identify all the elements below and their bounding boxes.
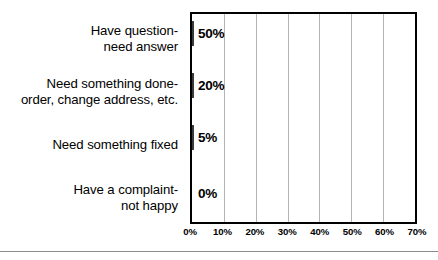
category-label-2: Need something fixed (0, 118, 184, 171)
bar-value-label-1: 20% (198, 78, 224, 93)
x-axis: 0% 10% 20% 30% 40% 50% 60% 70% (190, 226, 417, 242)
bar-track-2: 5% (192, 125, 217, 150)
x-tick-20: 20% (245, 226, 264, 237)
bar-track-0: 50% (192, 21, 224, 46)
bar-value-label-3: 0% (198, 186, 217, 201)
bar-value-label-2: 5% (198, 130, 217, 145)
bar-track-3: 0% (192, 181, 217, 206)
x-tick-40: 40% (310, 226, 329, 237)
x-tick-50: 50% (343, 226, 362, 237)
x-tick-0: 0% (183, 226, 197, 237)
bar-row: 5% (192, 118, 415, 170)
category-axis: Have question- need answer Need somethin… (0, 12, 184, 224)
x-tick-60: 60% (375, 226, 394, 237)
bottom-divider (0, 251, 438, 252)
bar-2[interactable] (192, 125, 194, 150)
horizontal-bar-chart: Have question- need answer Need somethin… (0, 0, 438, 260)
category-label-1: Need something done- order, change addre… (0, 65, 184, 118)
category-label-0: Have question- need answer (0, 12, 184, 65)
bar-row: 0% (192, 170, 415, 222)
x-tick-70: 70% (408, 226, 427, 237)
bar-row: 20% (192, 66, 415, 118)
bar-row: 50% (192, 14, 415, 66)
bar-track-1: 20% (192, 73, 224, 98)
bar-0[interactable] (192, 21, 194, 46)
bars-layer: 50% 20% 5% (192, 14, 415, 222)
bar-value-label-0: 50% (198, 26, 224, 41)
plot-area: 50% 20% 5% (190, 12, 417, 224)
x-tick-30: 30% (278, 226, 297, 237)
bar-1[interactable] (192, 73, 194, 98)
category-label-3: Have a complaint- not happy (0, 171, 184, 224)
plot-inner: 50% 20% 5% (192, 14, 415, 222)
x-tick-10: 10% (213, 226, 232, 237)
